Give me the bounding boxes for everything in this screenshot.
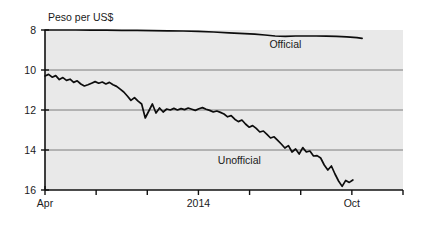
y-tick-label-8: 8 bbox=[30, 24, 36, 36]
y-tick-label-10: 10 bbox=[24, 64, 36, 76]
y-tick-label-12: 12 bbox=[24, 104, 36, 116]
y-axis-title: Peso per US$ bbox=[48, 11, 114, 23]
series-annotation-official: Official bbox=[269, 38, 301, 50]
y-tick-label-16: 16 bbox=[24, 184, 36, 196]
x-tick-label-2014: 2014 bbox=[187, 197, 211, 209]
x-tick-label-apr: Apr bbox=[37, 197, 54, 209]
y-tick-label-14: 14 bbox=[24, 144, 36, 156]
chart-container: 810121416 Apr2014Oct Peso per US$ Offici… bbox=[0, 0, 426, 227]
x-tick-label-oct: Oct bbox=[344, 197, 360, 209]
exchange-rate-line-chart: 810121416 Apr2014Oct Peso per US$ Offici… bbox=[0, 0, 426, 227]
series-annotation-unofficial: Unofficial bbox=[218, 154, 261, 166]
